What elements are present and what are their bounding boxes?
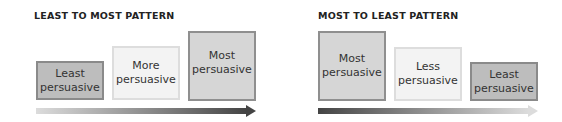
box-most-persuasive: Most persuasive xyxy=(318,31,386,101)
box-label-line2: persuasive xyxy=(322,66,382,80)
left-increasing-arrow-icon xyxy=(36,108,256,114)
box-label-line2: persuasive xyxy=(398,74,458,88)
box-label-line2: persuasive xyxy=(192,63,252,77)
right-decreasing-arrow-icon xyxy=(318,108,538,114)
box-less-persuasive: Less persuasive xyxy=(394,47,462,101)
right-panel-title: MOST TO LEAST PATTERN xyxy=(318,10,458,21)
box-most-persuasive: Most persuasive xyxy=(188,31,256,101)
box-label-line1: Least xyxy=(40,67,100,81)
left-panel-title: LEAST TO MOST PATTERN xyxy=(34,10,174,21)
box-least-persuasive: Least persuasive xyxy=(36,61,104,100)
box-label-line2: persuasive xyxy=(474,82,534,96)
box-label-line1: More xyxy=(116,59,176,73)
box-label-line1: Most xyxy=(192,49,252,63)
box-label-line2: persuasive xyxy=(40,81,100,95)
box-label-line1: Most xyxy=(322,52,382,66)
box-label-line2: persuasive xyxy=(116,73,176,87)
box-label-line1: Least xyxy=(474,68,534,82)
box-label-line1: Less xyxy=(398,60,458,74)
box-least-persuasive: Least persuasive xyxy=(470,62,538,101)
box-more-persuasive: More persuasive xyxy=(112,46,180,100)
